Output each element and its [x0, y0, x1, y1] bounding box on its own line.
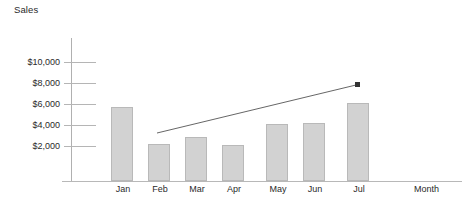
bar-jul [347, 103, 369, 181]
x-tick-label-mar: Mar [177, 184, 217, 194]
y-tick-label: $8,000 [2, 78, 60, 88]
chart-screenshot: Sales $10,000$8,000$6,000$4,000$2,000 Ja… [0, 0, 469, 203]
x-tick-label-jul: Jul [339, 184, 379, 194]
gridline [64, 62, 96, 63]
y-tick-label: $4,000 [2, 120, 60, 130]
x-tick-label-may: May [258, 184, 298, 194]
y-tick-label: $6,000 [2, 99, 60, 109]
bar-feb [148, 144, 170, 181]
x-tick-label-jan: Jan [103, 184, 143, 194]
bar-may [266, 124, 288, 181]
x-tick-label-apr: Apr [214, 184, 254, 194]
y-axis-line [71, 38, 72, 182]
gridline [64, 83, 96, 84]
x-tick-label-feb: Feb [140, 184, 180, 194]
bar-jan [111, 107, 133, 181]
x-axis-line [62, 181, 462, 182]
x-tick-label-jun: Jun [295, 184, 335, 194]
plot-area: $10,000$8,000$6,000$4,000$2,000 JanFebMa… [0, 0, 469, 203]
gridline [64, 125, 96, 126]
bar-jun [303, 123, 325, 181]
bar-mar [185, 137, 207, 181]
gridline [64, 146, 96, 147]
x-axis-title: Month [414, 184, 439, 194]
bar-apr [222, 145, 244, 181]
y-tick-label: $2,000 [2, 141, 60, 151]
gridline [64, 104, 96, 105]
y-tick-label: $10,000 [2, 57, 60, 67]
